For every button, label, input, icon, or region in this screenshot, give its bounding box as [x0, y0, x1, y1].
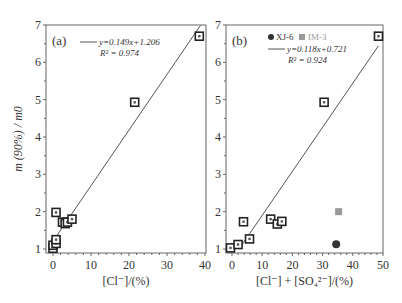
- x-tick-label: 40: [199, 258, 211, 272]
- y-tick-label: 4: [35, 130, 41, 144]
- x-tick-label: 40: [347, 258, 359, 272]
- x-tick-label: 0: [50, 258, 56, 272]
- legend-xj6-icon: [268, 34, 274, 40]
- y-axis-label: m (90%) / m0: [11, 106, 25, 172]
- panel-label: (a): [52, 33, 66, 48]
- fit-equation: y=0.149x+1.206: [98, 37, 160, 47]
- legend-im3-label: IM-3: [308, 32, 327, 42]
- y-tick-label: 4: [215, 130, 221, 144]
- chart-figure: 1234567010203040(a)y=0.149x+1.206R² = 0.…: [0, 0, 402, 303]
- x-tick-label: 20: [123, 258, 135, 272]
- y-tick-label: 7: [215, 18, 221, 32]
- y-tick-label: 2: [35, 205, 41, 219]
- fit-r2: R² = 0.924: [287, 55, 328, 65]
- x-tick-label: 10: [256, 258, 268, 272]
- y-tick-label: 1: [35, 242, 41, 256]
- x-tick-label: 0: [229, 258, 235, 272]
- x-tick-label: 30: [161, 258, 173, 272]
- x-tick-label: 20: [286, 258, 298, 272]
- x-axis-label: [Cl⁻]/(%): [103, 274, 150, 288]
- y-tick-label: 5: [215, 93, 221, 107]
- point-im3: [335, 208, 342, 215]
- panel-b: 123456701020304050(b)XJ-6IM-3y=0.118x+0.…: [215, 18, 389, 288]
- x-tick-label: 30: [317, 258, 329, 272]
- y-tick-label: 5: [35, 93, 41, 107]
- fit-equation: y=0.118x+0.721: [286, 44, 347, 54]
- y-tick-label: 1: [215, 242, 221, 256]
- panel-label: (b): [232, 33, 247, 48]
- x-axis-label: [Cl⁻] + [SO₄²⁻]/(%): [256, 274, 353, 288]
- fit-line: [241, 46, 378, 246]
- legend-xj6-label: XJ-6: [276, 32, 294, 42]
- y-tick-label: 3: [215, 167, 221, 181]
- y-tick-label: 2: [215, 205, 221, 219]
- fit-r2: R² = 0.974: [99, 48, 140, 58]
- panel-a: 1234567010203040(a)y=0.149x+1.206R² = 0.…: [35, 18, 211, 288]
- legend-im3-icon: [299, 34, 305, 40]
- y-tick-label: 3: [35, 167, 41, 181]
- point-xj6: [332, 240, 340, 248]
- x-tick-label: 10: [85, 258, 97, 272]
- y-tick-label: 6: [35, 55, 41, 69]
- x-tick-label: 50: [377, 258, 389, 272]
- y-tick-label: 6: [215, 55, 221, 69]
- y-tick-label: 7: [35, 18, 41, 32]
